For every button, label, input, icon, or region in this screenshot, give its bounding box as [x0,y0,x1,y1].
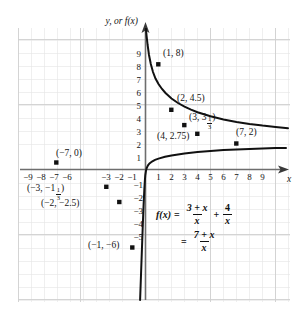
y-tick-6: 6 [137,88,142,98]
y-tick-5: 5 [137,101,142,111]
y-axis-label: y, or f(x) [105,16,138,27]
formula-term-1: 3 + x x [185,203,210,226]
point-label-neg1-neg6: (−1, −6) [88,240,119,250]
formula-term-2: 4 x [223,203,232,226]
y-tick-7: 7 [137,75,142,85]
point-label-neg3-whole: (−3, −1 [27,183,55,193]
graph-figure: −9 −8 −7 −6 −3 −2 −1 1 2 3 4 5 6 7 8 9 1… [0,0,304,310]
grid-minor [18,28,290,302]
fraction-denominator: 3 [207,123,212,131]
y-tick-2: 2 [137,140,142,150]
term2-numerator: 4 [223,203,232,214]
term3-numerator: 7 + x [192,230,217,241]
data-point-4-2.75 [195,132,199,136]
data-point-neg3-neg1.333 [104,185,108,189]
point-label-neg2-neg2.5: (−2, −2.5) [41,198,79,208]
data-point-1-8 [156,62,160,66]
formula-line-1: f(x) = 3 + x x + 4 x [156,203,276,226]
data-point-3-3.333 [182,123,186,127]
x-tick--6: −6 [62,172,72,182]
x-tick-1: 1 [156,172,161,182]
formula-equals: = [174,210,180,220]
point-label-4-2.75: (4, 2.75) [157,131,189,141]
formula-term-3: 7 + x x [192,230,217,253]
x-axis-label: x [286,174,292,184]
function-curve [140,28,288,300]
y-tick-8: 8 [137,62,142,72]
formula-lhs: f(x) [156,210,171,220]
y-tick--2: −2 [133,193,143,203]
point-label-1-8: (1, 8) [163,48,184,58]
term2-denominator: x [223,214,232,226]
term1-denominator: x [193,214,202,226]
data-point-7-2 [234,141,238,145]
x-tick-7: 7 [234,172,239,182]
data-point-neg7-0 [54,160,58,164]
x-tick--2: −2 [114,172,124,182]
x-tick-5: 5 [208,172,213,182]
point-label-2-4.5: (2, 4.5) [177,93,205,103]
x-tick-9: 9 [260,172,265,182]
point-label-neg7-0: (−7, 0) [56,148,82,158]
x-tick-8: 8 [247,172,252,182]
axes [20,30,281,300]
x-tick-2: 2 [169,172,174,182]
y-tick-1: 1 [137,153,142,163]
x-axis-tick-labels-negative: −9 −8 −7 −6 −3 −2 −1 [23,172,137,182]
y-tick--1: −1 [133,180,143,190]
point-label-3-whole: (3, 3 [189,112,206,122]
point-label-neg3-tail: ) [61,183,64,193]
point-label-3-tail: ) [212,112,215,122]
data-point-neg2-neg2.5 [117,200,121,204]
x-tick--9: −9 [23,172,33,182]
formula-line-2: = 7 + x x [156,230,276,253]
formula-line2-equals: = [181,237,187,247]
term1-numerator: 3 + x [185,203,210,214]
y-tick--3: −3 [133,206,143,216]
x-tick--3: −3 [101,172,111,182]
x-tick--8: −8 [36,172,46,182]
x-tick--7: −7 [49,172,59,182]
x-tick-3: 3 [182,172,187,182]
y-axis-tick-labels-positive: 1 2 3 4 5 6 7 8 9 [137,49,142,163]
point-label-3-3-and-one-third: (3, 313) [189,112,215,130]
point-label-7-2: (7, 2) [236,127,257,137]
coordinate-plane-svg: −9 −8 −7 −6 −3 −2 −1 1 2 3 4 5 6 7 8 9 1… [0,0,304,310]
y-tick--4: −4 [133,219,143,229]
formula-plus: + [213,210,219,220]
y-axis-tick-labels-negative: −1 −2 −3 −4 −5 [133,180,143,242]
y-tick-9: 9 [137,49,142,59]
x-tick-4: 4 [195,172,200,182]
x-tick-6: 6 [221,172,226,182]
data-point-2-4.5 [169,108,173,112]
term3-denominator: x [200,241,209,253]
y-tick-3: 3 [137,127,142,137]
y-tick-4: 4 [137,114,142,124]
data-point-neg1-neg6 [130,245,134,249]
x-axis-tick-labels-positive: 1 2 3 4 5 6 7 8 9 [156,172,265,182]
y-tick--5: −5 [133,232,143,242]
function-formula: f(x) = 3 + x x + 4 x = 7 + x x [156,203,276,253]
